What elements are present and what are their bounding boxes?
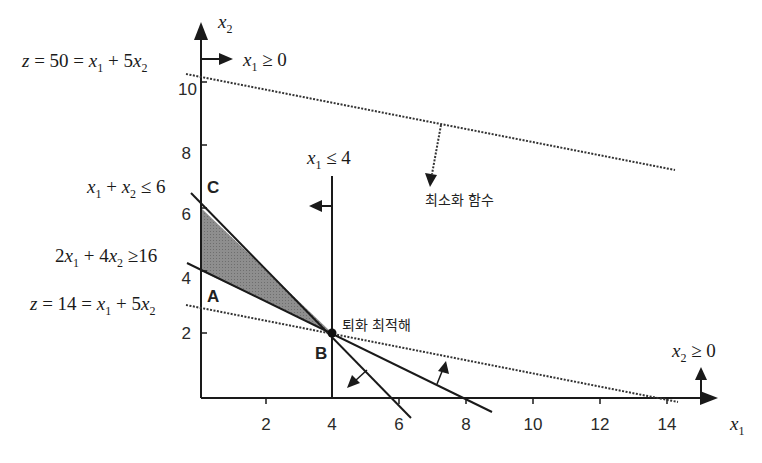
y-tick-label: 4 bbox=[182, 269, 191, 288]
x-axis bbox=[201, 391, 718, 405]
x-tick-label: 4 bbox=[327, 415, 336, 434]
y-axis bbox=[194, 22, 208, 398]
x-tick-label: 14 bbox=[658, 415, 677, 434]
x1-le-4-line bbox=[309, 176, 332, 398]
x-tick-label: 6 bbox=[394, 415, 403, 434]
objective-z50-line bbox=[186, 74, 675, 187]
y-axis-label: x2 bbox=[217, 11, 232, 36]
x1-nonneg-label: x1 ≥ 0 bbox=[242, 49, 287, 74]
point-label-b: B bbox=[315, 344, 327, 363]
sum-le-6-label: x1 + x2 ≤ 6 bbox=[86, 176, 166, 201]
optimum-point-b bbox=[328, 329, 337, 338]
2x1-4x2-ge-16-label: 2x1 + 4x2 ≥16 bbox=[55, 245, 157, 270]
minimize-annotation: 최소화 함수 bbox=[425, 192, 494, 208]
x-tick-label: 10 bbox=[524, 415, 543, 434]
lp-diagram: 2 4 6 8 10 12 14 2 4 6 8 10 x2 x1 x1 ≥ 0… bbox=[0, 0, 762, 463]
objective-z14-label: z = 14 = x1 + 5x2 bbox=[29, 293, 155, 318]
point-label-c: C bbox=[207, 178, 219, 197]
point-label-a: A bbox=[207, 287, 219, 306]
2x1-4x2-ge-16-line bbox=[187, 263, 492, 412]
x2-nonneg-label: x2 ≥ 0 bbox=[671, 340, 716, 365]
sum-le-6-line bbox=[191, 193, 411, 418]
y-tick-label: 10 bbox=[178, 80, 197, 99]
y-tick-label: 2 bbox=[182, 324, 191, 343]
x-tick-label: 12 bbox=[591, 415, 610, 434]
y-tick-label: 6 bbox=[182, 205, 191, 224]
x-tick-label: 2 bbox=[261, 415, 270, 434]
degenerate-optimum-annotation: 퇴화 최적해 bbox=[342, 317, 411, 333]
x1-nonneg-arrow bbox=[201, 53, 233, 65]
y-tick-label: 8 bbox=[182, 144, 191, 163]
objective-z50-label: z = 50 = x1 + 5x2 bbox=[21, 50, 147, 75]
x-tick-label: 8 bbox=[461, 415, 470, 434]
x-axis-label: x1 bbox=[729, 413, 744, 438]
x1-le-4-label: x1 ≤ 4 bbox=[306, 147, 351, 172]
objective-z14-line bbox=[186, 305, 678, 402]
